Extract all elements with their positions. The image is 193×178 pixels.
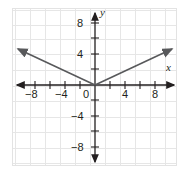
grid-line-vertical	[60, 9, 61, 165]
origin-label: 0	[83, 89, 89, 100]
grid-line-vertical	[15, 9, 16, 165]
y-axis-label: y	[100, 7, 105, 18]
plot-area	[12, 8, 177, 166]
grid-line-horizontal	[13, 117, 176, 118]
x-tick-label-neg4: −4	[55, 89, 68, 100]
grid-line-horizontal	[13, 39, 176, 40]
x-tick-label-neg8: −8	[25, 89, 38, 100]
grid-line-horizontal	[13, 10, 176, 11]
grid-line-vertical	[90, 9, 91, 165]
grid-line-horizontal	[13, 70, 176, 71]
grid-line-horizontal	[13, 132, 176, 133]
grid-line-horizontal	[13, 163, 176, 164]
grid-line-vertical	[150, 9, 151, 165]
grid-line-horizontal	[13, 86, 176, 87]
y-tick-label-4: 4	[77, 49, 83, 60]
y-tick-label-8: 8	[77, 18, 83, 29]
grid-line-vertical	[120, 9, 121, 165]
x-tick-label-8: 8	[152, 89, 158, 100]
y-tick-label-neg8: −8	[71, 142, 84, 153]
x-tick-label-4: 4	[122, 89, 128, 100]
grid-line-vertical	[45, 9, 46, 165]
grid-line-vertical	[30, 9, 31, 165]
coordinate-graph-figure: y x 0 −8 −4 4 8 8 4 −4 −8	[0, 0, 193, 178]
grid-line-horizontal	[13, 148, 176, 149]
grid-line-vertical	[105, 9, 106, 165]
grid-line-horizontal	[13, 25, 176, 26]
grid-line-horizontal	[13, 54, 176, 55]
grid-line-vertical	[135, 9, 136, 165]
y-tick-label-neg4: −4	[71, 111, 84, 122]
x-axis-label: x	[166, 62, 171, 73]
grid-line-horizontal	[13, 101, 176, 102]
grid-line-vertical	[165, 9, 166, 165]
